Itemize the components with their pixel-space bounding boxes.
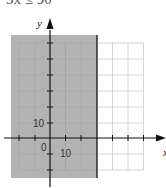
x-tick-label-10: 10: [60, 148, 72, 159]
x-arrow-icon: [156, 135, 166, 142]
shaded-region: [11, 35, 97, 178]
inequality-graph: y x 10 0 10: [0, 0, 166, 188]
y-tick-label-10: 10: [33, 118, 45, 129]
origin-label: 0: [41, 142, 47, 153]
y-arrow-icon: [47, 18, 54, 29]
y-axis-label: y: [36, 17, 42, 29]
x-axis-label: x: [162, 146, 166, 158]
